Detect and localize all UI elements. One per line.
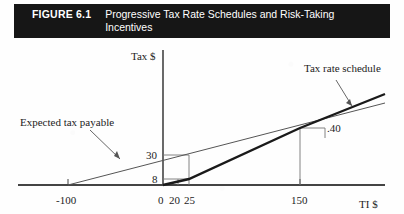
y-value-label-8: 8	[152, 173, 158, 185]
figure-number-label: FIGURE 6.1	[14, 8, 91, 21]
x-tick-label-0: 0	[158, 194, 164, 206]
x-tick-label-20: 20	[169, 194, 181, 206]
figure-title-bar: FIGURE 6.1 Progressive Tax Rate Schedule…	[14, 4, 390, 38]
x-axis-label: TI $	[359, 198, 378, 210]
x-tick-label-minus100: -100	[56, 194, 77, 206]
expected-tax-payable-arrowhead	[114, 151, 120, 159]
x-tick-label-150: 150	[291, 194, 308, 206]
y-value-label-30: 30	[146, 149, 158, 161]
tax-rate-schedule-arrowhead	[346, 99, 352, 106]
x-tick-label-25: 25	[184, 194, 196, 206]
figure-title-text: Progressive Tax Rate Schedules and Risk-…	[91, 8, 355, 34]
tax-rate-schedule-line	[163, 94, 385, 185]
chart-plot-area: Tax $ TI $ -100 0 20 25 150 30 8 Expecte…	[0, 38, 404, 214]
y-axis-label: Tax $	[131, 50, 156, 62]
annotation-slope-value: .40	[327, 122, 341, 134]
annotation-tax-rate-schedule: Tax rate schedule	[304, 62, 381, 74]
figure-container: FIGURE 6.1 Progressive Tax Rate Schedule…	[0, 0, 404, 214]
expected-tax-payable-line	[68, 103, 385, 185]
annotation-expected-tax-payable: Expected tax payable	[20, 116, 114, 128]
